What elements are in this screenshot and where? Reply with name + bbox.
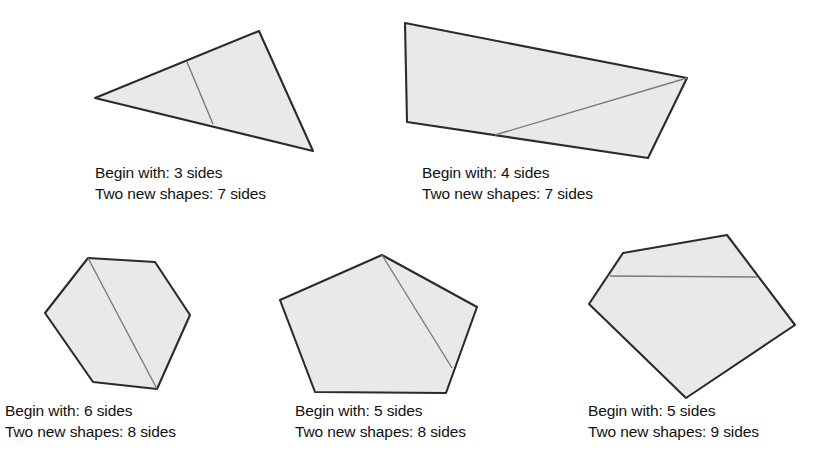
pentagon-apex-cut-outline [280,255,477,393]
hexagon-outline [45,258,190,389]
caption-pentagon-cross-cut-begin: Begin with: 5 sides [588,400,759,421]
caption-quadrilateral-result: Two new shapes: 7 sides [422,183,593,204]
caption-pentagon-cross-cut-result: Two new shapes: 9 sides [588,421,759,442]
shapes-canvas [0,0,835,454]
figure-hexagon [45,258,190,389]
caption-quadrilateral-begin: Begin with: 4 sides [422,162,593,183]
caption-pentagon-apex-cut-begin: Begin with: 5 sides [295,400,466,421]
caption-triangle-begin: Begin with: 3 sides [95,162,266,183]
triangle-outline [95,31,313,151]
caption-quadrilateral: Begin with: 4 sides Two new shapes: 7 si… [422,162,593,204]
pentagon-cross-cut-line [610,276,757,277]
pentagon-cross-cut-outline [589,235,795,398]
caption-hexagon-result: Two new shapes: 8 sides [5,421,176,442]
figure-triangle [95,31,313,151]
caption-pentagon-cross-cut: Begin with: 5 sides Two new shapes: 9 si… [588,400,759,442]
caption-triangle-result: Two new shapes: 7 sides [95,183,266,204]
figure-pentagon-cross-cut [589,235,795,398]
figure-quadrilateral [405,23,687,158]
figure-pentagon-apex-cut [280,255,477,393]
caption-hexagon: Begin with: 6 sides Two new shapes: 8 si… [5,400,176,442]
caption-pentagon-apex-cut-result: Two new shapes: 8 sides [295,421,466,442]
diagram-root: Begin with: 3 sides Two new shapes: 7 si… [0,0,835,454]
caption-pentagon-apex-cut: Begin with: 5 sides Two new shapes: 8 si… [295,400,466,442]
caption-hexagon-begin: Begin with: 6 sides [5,400,176,421]
caption-triangle: Begin with: 3 sides Two new shapes: 7 si… [95,162,266,204]
